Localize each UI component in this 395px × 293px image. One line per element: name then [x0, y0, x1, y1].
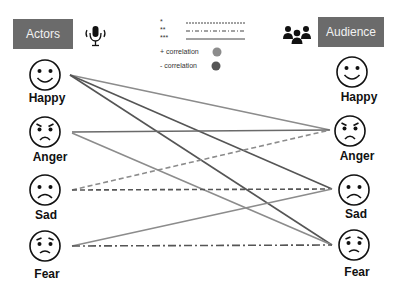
audience-anger-label: Anger: [327, 149, 387, 163]
legend-negative-label: - correlation: [160, 62, 197, 69]
actor-happy-label: Happy: [17, 91, 77, 105]
line-sad-anger: [72, 130, 330, 190]
audience-happy-face-icon: [337, 57, 367, 87]
actors-header: Actors: [13, 19, 73, 49]
actor-anger-face-icon: [30, 117, 60, 147]
audience-sad-face-icon: [339, 175, 369, 205]
actor-sad-face-icon: [30, 175, 60, 205]
audience-fear-face-icon: [339, 230, 369, 260]
line-sad-sad: [72, 189, 332, 190]
line-anger-anger: [72, 130, 330, 132]
legend-star-1: *: [160, 18, 163, 25]
audience-header: Audience: [318, 17, 384, 47]
legend-positive-dot: [213, 48, 222, 57]
actor-fear-face-icon: [30, 231, 60, 261]
microphone-icon: [86, 26, 105, 46]
audience-fear-label: Fear: [327, 265, 387, 279]
audience-happy-label: Happy: [329, 90, 389, 104]
audience-anger-face-icon: [335, 116, 365, 146]
legend-star-2: **: [160, 26, 165, 33]
actor-anger-label: Anger: [20, 150, 80, 164]
actor-sad-label: Sad: [16, 208, 76, 222]
actors-label: Actors: [26, 27, 60, 41]
line-fear-sad: [72, 189, 332, 246]
legend-star-3: ***: [160, 34, 168, 41]
actor-fear-label: Fear: [17, 267, 77, 281]
legend-negative-dot: [212, 62, 221, 71]
actor-happy-face-icon: [30, 60, 60, 90]
audience-sad-label: Sad: [326, 207, 386, 221]
audience-label: Audience: [326, 25, 376, 39]
group-icon: [283, 26, 311, 44]
legend-positive-label: + correlation: [160, 48, 199, 55]
line-fear-fear: [72, 245, 332, 246]
line-happy-anger: [70, 75, 330, 130]
